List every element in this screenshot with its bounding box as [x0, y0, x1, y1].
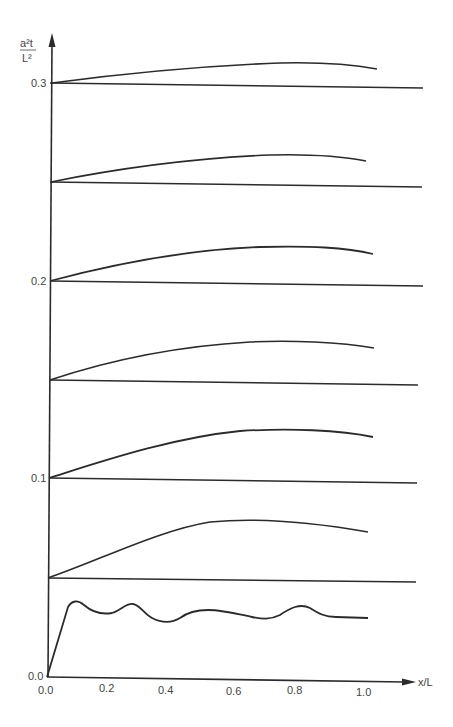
profile-chart: a²t L² x/L 0.3 0.2 0.1 0.0 0.0 0.2 0.4 0…: [0, 0, 453, 727]
x-axis-label: x/L: [418, 676, 433, 688]
curve-0.25: [51, 155, 366, 182]
curve-0.15: [50, 341, 374, 380]
y-axis-label-denominator: L²: [22, 52, 32, 64]
x-tick-1.0: 1.0: [356, 686, 371, 698]
x-tick-0.4: 0.4: [158, 684, 173, 696]
y-tick-0.2: 0.2: [31, 275, 46, 287]
curve-0.30: [52, 63, 377, 83]
x-tick-0.8: 0.8: [287, 684, 302, 696]
y-axis-label-numerator: a²t: [20, 37, 33, 49]
x-axis-arrow-icon: [402, 679, 416, 686]
y-tick-0.3: 0.3: [31, 77, 46, 89]
baseline-0.05: [48, 578, 416, 582]
baseline-0.25: [50, 182, 422, 187]
baseline-0.20: [50, 281, 423, 286]
curve-0.05: [48, 520, 368, 578]
x-tick-0.6: 0.6: [226, 685, 241, 697]
y-axis-arrow-icon: [49, 33, 56, 47]
y-tick-0.0: 0.0: [28, 670, 43, 682]
curve-0.10: [49, 430, 373, 478]
x-tick-0.0: 0.0: [38, 684, 53, 696]
baseline-0.10: [49, 478, 417, 483]
baseline-0.30: [50, 83, 423, 88]
curve-initial: [47, 601, 368, 677]
x-tick-0.2: 0.2: [99, 682, 114, 694]
y-tick-0.1: 0.1: [31, 472, 46, 484]
baseline-0.15: [50, 380, 418, 385]
y-axis: [48, 42, 52, 677]
curve-0.20: [50, 247, 373, 281]
